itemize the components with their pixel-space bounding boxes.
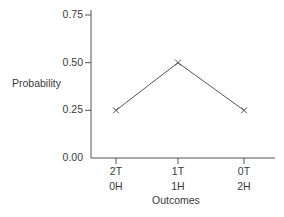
x-tick-label: 2T0H xyxy=(101,164,131,194)
x-axis-label: Outcomes xyxy=(152,195,200,206)
y-tick-label: 0.50 xyxy=(43,57,83,68)
y-tick-label: 0.00 xyxy=(43,152,83,163)
y-axis-label: Probability xyxy=(12,78,61,89)
y-tick-label: 0.75 xyxy=(43,9,83,20)
series-line xyxy=(116,63,244,111)
y-tick-label: 0.25 xyxy=(43,104,83,115)
series-markers xyxy=(113,60,247,114)
x-tick-label: 0T2H xyxy=(229,164,259,194)
x-tick-label: 1T1H xyxy=(163,164,193,194)
y-ticks xyxy=(85,15,91,110)
